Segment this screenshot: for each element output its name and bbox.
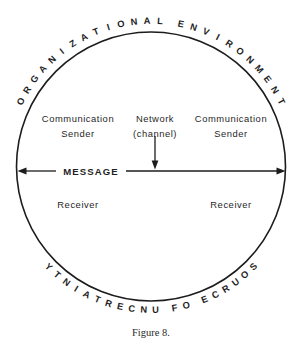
arc-letter: E bbox=[200, 294, 209, 306]
arc-letter: U bbox=[230, 276, 242, 288]
arc-letter: R bbox=[104, 298, 114, 310]
arc-letter: A bbox=[79, 31, 90, 43]
arc-letter: A bbox=[81, 289, 92, 301]
network-channel-arrowhead bbox=[152, 161, 159, 170]
figure-caption: Figure 8. bbox=[132, 327, 170, 338]
arc-letter: G bbox=[28, 73, 40, 85]
network-line1: Network bbox=[136, 113, 174, 124]
arc-letter: C bbox=[128, 303, 136, 314]
arc-letter: S bbox=[248, 261, 259, 272]
arc-letter: A bbox=[143, 16, 150, 26]
arc-letter: T bbox=[275, 97, 287, 107]
arc-letter: R bbox=[224, 38, 235, 50]
arc-letter: L bbox=[157, 16, 164, 26]
arc-letter: V bbox=[201, 26, 211, 38]
left-receiver-label: Receiver bbox=[57, 199, 98, 210]
arc-letter: I bbox=[214, 32, 221, 42]
message-arrowhead-left bbox=[18, 167, 27, 174]
arc-letter: R bbox=[21, 84, 33, 95]
arc-letter: T bbox=[93, 294, 102, 306]
figure-container: ORGANIZATIONALENVIRONMENT SOURCEOFUNCERT… bbox=[0, 0, 302, 348]
arc-letter: M bbox=[253, 63, 266, 76]
arc-letter: T bbox=[52, 269, 63, 280]
message-label: MESSAGE bbox=[63, 166, 119, 177]
network-line2: (channel) bbox=[133, 128, 177, 139]
arc-letter: I bbox=[106, 22, 111, 32]
left-sender-line1: Communication bbox=[42, 113, 114, 124]
arc-letter: N bbox=[130, 17, 138, 28]
arc-letter: I bbox=[58, 47, 66, 57]
arc-letter: Z bbox=[68, 38, 78, 50]
arc-letter: N bbox=[140, 305, 148, 315]
arc-letter: Y bbox=[43, 261, 55, 273]
arc-letter: E bbox=[262, 74, 274, 85]
arc-letter: N bbox=[244, 54, 256, 66]
arc-letter: N bbox=[189, 22, 199, 34]
arc-letter: R bbox=[220, 283, 231, 295]
message-arrowhead-right bbox=[277, 167, 286, 174]
arc-letter: E bbox=[177, 19, 185, 30]
arc-letter: T bbox=[91, 26, 100, 38]
arc-letter: A bbox=[37, 63, 49, 75]
arc-letter: O bbox=[116, 18, 125, 29]
left-sender-line2: Sender bbox=[61, 128, 95, 139]
communication-diagram: ORGANIZATIONALENVIRONMENT SOURCEOFUNCERT… bbox=[0, 0, 302, 348]
arc-letter: O bbox=[182, 300, 191, 311]
arc-letter: E bbox=[116, 301, 124, 312]
arc-letter: U bbox=[152, 305, 159, 315]
arc-letter: N bbox=[269, 84, 281, 95]
arc-bottom-label: SOURCEOFUNCERTAINTY bbox=[43, 261, 260, 315]
right-sender-line1: Communication bbox=[195, 113, 267, 124]
arc-top-label: ORGANIZATIONALENVIRONMENT bbox=[15, 16, 287, 107]
right-receiver-label: Receiver bbox=[210, 199, 251, 210]
arc-letter: F bbox=[171, 303, 179, 314]
arc-letter: I bbox=[73, 284, 80, 294]
arc-letter: N bbox=[61, 276, 73, 288]
arc-letter: O bbox=[239, 269, 251, 281]
arc-letter: O bbox=[15, 96, 27, 107]
arc-letter: C bbox=[210, 289, 221, 301]
organizational-boundary-circle bbox=[17, 32, 286, 301]
right-sender-line2: Sender bbox=[214, 128, 248, 139]
arc-letter: N bbox=[46, 54, 58, 66]
arc-letter: O bbox=[234, 45, 246, 57]
